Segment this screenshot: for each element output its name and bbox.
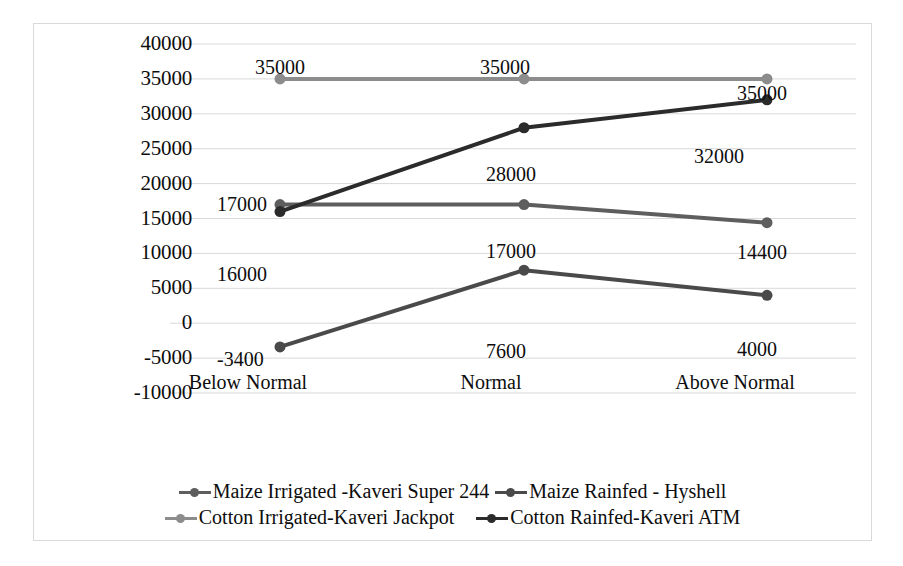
- y-axis-tick-label: 30000: [62, 103, 192, 124]
- x-axis-tick-label: Below Normal: [189, 372, 307, 392]
- series-point: [519, 122, 530, 133]
- legend-row: Cotton Irrigated-Kaveri JackpotCotton Ra…: [165, 507, 740, 528]
- data-point-label: 28000: [486, 164, 536, 184]
- data-point-label: -3400: [217, 349, 264, 369]
- data-point-label: 7600: [486, 341, 526, 361]
- legend-item[interactable]: Maize Rainfed - Hyshell: [495, 481, 726, 502]
- y-axis-tick-label: 15000: [62, 208, 192, 229]
- y-axis-tick-label: 10000: [62, 242, 192, 263]
- series-point: [275, 206, 286, 217]
- legend-label: Maize Irrigated -Kaveri Super 244: [213, 481, 490, 502]
- legend-item[interactable]: Cotton Rainfed-Kaveri ATM: [476, 507, 740, 528]
- legend-row: Maize Irrigated -Kaveri Super 244Maize R…: [179, 481, 727, 502]
- x-axis-tick-label: Above Normal: [675, 372, 794, 392]
- plot-area: 4000035000300002500020000150001000050000…: [34, 24, 871, 540]
- series-point: [762, 217, 773, 228]
- data-point-label: 32000: [694, 146, 744, 166]
- legend-marker-icon: [179, 485, 211, 499]
- chart-legend: Maize Irrigated -Kaveri Super 244Maize R…: [34, 481, 871, 528]
- y-axis: 4000035000300002500020000150001000050000…: [34, 24, 192, 540]
- data-point-label: 35000: [480, 57, 530, 77]
- data-point-label: 35000: [737, 83, 787, 103]
- y-axis-tick-label: 40000: [62, 33, 192, 54]
- y-axis-tick-label: -10000: [62, 382, 192, 403]
- y-axis-tick-label: 0: [62, 312, 192, 333]
- legend-label: Maize Rainfed - Hyshell: [529, 481, 726, 502]
- legend-marker-icon: [495, 485, 527, 499]
- data-point-label: 4000: [737, 339, 777, 359]
- legend-item[interactable]: Cotton Irrigated-Kaveri Jackpot: [165, 507, 454, 528]
- series-point: [762, 290, 773, 301]
- legend-item[interactable]: Maize Irrigated -Kaveri Super 244: [179, 481, 490, 502]
- y-axis-tick-label: 35000: [62, 68, 192, 89]
- legend-marker-icon: [165, 511, 197, 525]
- series-line: [280, 270, 767, 347]
- series-point: [519, 199, 530, 210]
- series-point: [275, 341, 286, 352]
- data-point-label: 17000: [486, 241, 536, 261]
- data-point-label: 17000: [217, 194, 267, 214]
- y-axis-tick-label: 5000: [62, 277, 192, 298]
- y-axis-tick-label: 20000: [62, 173, 192, 194]
- x-axis-tick-label: Normal: [460, 372, 521, 392]
- series-point: [519, 265, 530, 276]
- y-axis-tick-label: -5000: [62, 347, 192, 368]
- data-point-label: 35000: [255, 57, 305, 77]
- y-axis-tick-label: 25000: [62, 138, 192, 159]
- legend-marker-icon: [476, 511, 508, 525]
- data-point-label: 14400: [737, 242, 787, 262]
- legend-label: Cotton Irrigated-Kaveri Jackpot: [199, 507, 454, 528]
- data-point-label: 16000: [217, 264, 267, 284]
- legend-label: Cotton Rainfed-Kaveri ATM: [510, 507, 740, 528]
- chart-container: 4000035000300002500020000150001000050000…: [33, 23, 872, 541]
